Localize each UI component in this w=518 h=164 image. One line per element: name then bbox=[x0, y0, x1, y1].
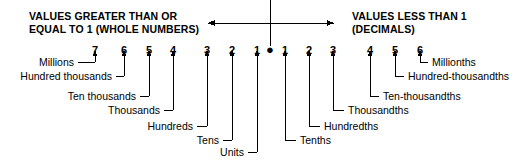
digit-whole-4: 3 bbox=[200, 44, 214, 56]
label-left-2: Ten thousands bbox=[0, 90, 136, 102]
label-left-5: Tens bbox=[0, 134, 219, 146]
digit-whole-1: 6 bbox=[117, 44, 131, 56]
label-right-4: Hundredths bbox=[324, 120, 378, 132]
axis-arrowhead-left bbox=[208, 20, 215, 26]
label-right-3: Thousandths bbox=[348, 104, 409, 116]
place-value-diagram: VALUES GREATER THAN OR EQUAL TO 1 (WHOLE… bbox=[0, 0, 518, 164]
axis-arrowhead-right bbox=[327, 20, 334, 26]
decimal-point: ● bbox=[264, 44, 276, 56]
digit-decimal-3: 4 bbox=[363, 44, 377, 56]
label-right-5: Tenths bbox=[300, 134, 331, 146]
digit-whole-0: 7 bbox=[88, 44, 102, 56]
digit-whole-5: 2 bbox=[225, 44, 239, 56]
digit-whole-6: 1 bbox=[250, 44, 264, 56]
digit-decimal-2: 3 bbox=[326, 44, 340, 56]
digit-whole-2: 5 bbox=[142, 44, 156, 56]
digit-decimal-5: 6 bbox=[413, 44, 427, 56]
label-left-4: Hundreds bbox=[0, 120, 193, 132]
label-left-3: Thousands bbox=[0, 104, 160, 116]
digit-whole-3: 4 bbox=[166, 44, 180, 56]
label-right-1: Hundred-thousandths bbox=[408, 70, 509, 82]
label-left-0: Millions bbox=[0, 56, 74, 68]
label-left-6: Units bbox=[0, 146, 244, 158]
label-right-2: Ten-thousandths bbox=[383, 90, 461, 102]
digit-decimal-1: 2 bbox=[302, 44, 316, 56]
digit-decimal-0: 1 bbox=[278, 44, 292, 56]
label-right-0: Millionths bbox=[432, 56, 476, 68]
label-left-1: Hundred thousands bbox=[0, 70, 112, 82]
digit-decimal-4: 5 bbox=[388, 44, 402, 56]
